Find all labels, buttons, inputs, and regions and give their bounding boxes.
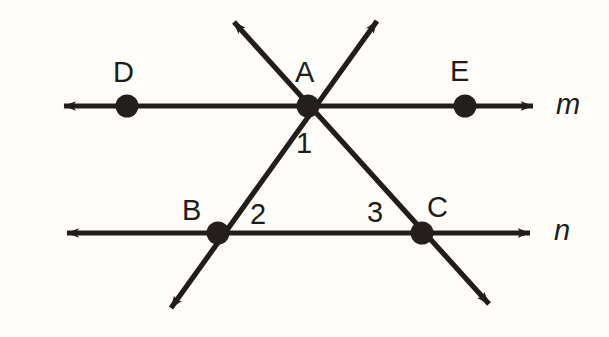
line-label-n: n bbox=[554, 216, 570, 245]
point-label-a: A bbox=[295, 58, 314, 87]
point-label-b: B bbox=[182, 196, 201, 225]
line-label-m: m bbox=[556, 90, 580, 119]
geometry-diagram: D A E B C 1 2 3 m n bbox=[0, 0, 609, 337]
point-dot-e bbox=[454, 95, 477, 118]
point-dot-c bbox=[411, 222, 434, 245]
point-label-d: D bbox=[113, 58, 134, 87]
geometry-canvas bbox=[0, 0, 609, 337]
angle-label-3: 3 bbox=[367, 198, 383, 227]
point-dot-b bbox=[207, 222, 230, 245]
point-dot-d bbox=[116, 95, 139, 118]
point-label-e: E bbox=[450, 57, 469, 86]
vertex-dots-group bbox=[116, 95, 477, 245]
angle-label-2: 2 bbox=[250, 200, 266, 229]
point-dot-a bbox=[297, 95, 320, 118]
angle-label-1: 1 bbox=[296, 129, 312, 158]
point-label-c: C bbox=[427, 193, 448, 222]
